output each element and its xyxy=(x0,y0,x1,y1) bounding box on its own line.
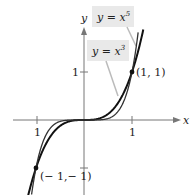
leader-x3 xyxy=(106,61,118,96)
label-x5-text: y = x5 xyxy=(96,10,131,24)
point-1-1 xyxy=(130,70,135,75)
x-axis-label: x xyxy=(183,114,190,127)
label-x3-text: y = x3 xyxy=(91,44,126,58)
y-axis-label: y xyxy=(80,12,88,25)
y-tick-pos-label: 1 xyxy=(72,66,79,79)
cubic-quintic-graph: x y 1 1 1 y = x5 y = x3 (1, 1) (− 1,− 1) xyxy=(0,0,191,195)
point-neg1-neg1 xyxy=(34,166,39,171)
y-axis-arrow-icon xyxy=(81,27,87,35)
axes: x y 1 1 1 xyxy=(13,12,190,195)
label-x3: y = x3 xyxy=(87,40,129,96)
x-tick-pos-label: 1 xyxy=(129,126,136,139)
x-axis-arrow-icon xyxy=(173,117,181,123)
x-tick-neg-label: 1 xyxy=(34,126,41,139)
point-neg1-neg1-label: (− 1,− 1) xyxy=(40,170,92,183)
point-1-1-label: (1, 1) xyxy=(136,66,166,79)
